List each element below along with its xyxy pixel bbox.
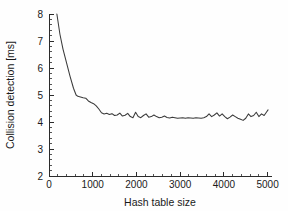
x-tick-label: 2000	[125, 179, 148, 190]
y-tick-label: 5	[37, 90, 43, 101]
tick-labels-group: 2345678010002000300040005000	[37, 9, 279, 190]
y-tick-label: 8	[37, 9, 43, 20]
y-tick-label: 6	[37, 63, 43, 74]
chart-plot-svg: 2345678010002000300040005000 Hash table …	[0, 0, 288, 211]
x-tick-label: 1000	[82, 179, 105, 190]
y-tick-label: 2	[37, 171, 43, 182]
ticks-group	[49, 14, 268, 176]
data-series-group	[57, 14, 268, 120]
x-axis-title: Hash table size	[124, 196, 196, 208]
y-tick-label: 4	[37, 117, 43, 128]
y-tick-label: 3	[37, 144, 43, 155]
x-tick-label: 5000	[257, 179, 280, 190]
axis-group	[49, 14, 272, 176]
y-axis-title: Collision detection [ms]	[4, 41, 16, 149]
chart-figure: 2345678010002000300040005000 Hash table …	[0, 0, 288, 211]
y-tick-label: 7	[37, 36, 43, 47]
x-tick-label: 4000	[213, 179, 236, 190]
x-tick-label: 0	[46, 179, 52, 190]
data-series-line	[57, 14, 268, 120]
x-tick-label: 3000	[169, 179, 192, 190]
